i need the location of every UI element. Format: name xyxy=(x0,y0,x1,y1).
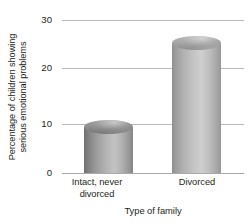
y-axis-title-line-2: serious emotional problems xyxy=(18,34,30,161)
x-tick-label-divorced: Divorced xyxy=(152,177,242,189)
x-tick-label-intact-never-divorced: Intact, never divorced xyxy=(52,177,142,200)
bar-chart-figure: Percentage of children showing serious e… xyxy=(0,0,250,224)
bar-top-highlight xyxy=(84,120,133,134)
bar-top-ellipse xyxy=(84,120,133,134)
bar-body xyxy=(172,43,221,173)
plot-area: 30 20 10 0 xyxy=(62,20,244,173)
y-tick-label-10: 10 xyxy=(28,119,52,129)
bar-top-ellipse xyxy=(172,36,221,50)
y-axis-title: Percentage of children showing serious e… xyxy=(3,2,33,192)
y-tick-label-20: 20 xyxy=(28,63,52,73)
bar-intact-never-divorced[interactable] xyxy=(84,120,133,173)
x-axis-title: Type of family xyxy=(62,205,244,216)
x-tick-line-2: divorced xyxy=(52,189,142,201)
x-tick-line-1: Divorced xyxy=(152,177,242,189)
x-tick-line-1: Intact, never xyxy=(52,177,142,189)
bar-divorced[interactable] xyxy=(172,36,221,173)
y-tick-label-0: 0 xyxy=(28,168,52,178)
bar-top-highlight xyxy=(172,36,221,50)
gridline-30 xyxy=(62,20,244,21)
y-axis-title-line-1: Percentage of children showing xyxy=(7,34,19,161)
y-tick-label-30: 30 xyxy=(28,15,52,25)
axis-baseline-0 xyxy=(62,173,244,174)
